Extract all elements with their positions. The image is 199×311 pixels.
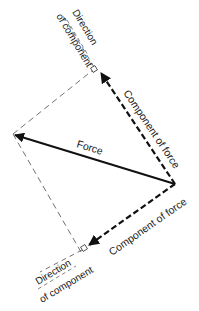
- component-upper-label: Component of force: [121, 87, 183, 170]
- component-vector-upper: [101, 73, 175, 184]
- force-components-diagram: Force Component of force Component of fo…: [0, 0, 199, 311]
- component-lower-label: Component of force: [106, 195, 189, 258]
- projection-line-upper: [13, 70, 93, 134]
